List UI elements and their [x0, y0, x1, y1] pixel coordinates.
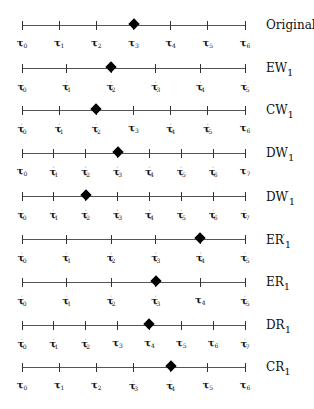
tick-mark — [53, 321, 54, 330]
tick-label: τ′5 — [177, 209, 186, 221]
tick-label: τ3 — [128, 38, 139, 49]
tick-mark — [66, 235, 67, 244]
tick-label: τ′2 — [81, 166, 90, 178]
tick-mark — [170, 106, 171, 115]
tick-label: τ′3 — [151, 252, 160, 264]
tick-mark — [59, 363, 60, 372]
timeline-row: τ0τ1τ2τ3τ4τ5τ6Original — [0, 25, 314, 65]
tick-label: τ′5 — [177, 166, 186, 178]
tick-label: τ5 — [203, 38, 214, 49]
tick-mark — [149, 192, 150, 201]
tick-mark — [245, 363, 246, 372]
tick-label: τ′1 — [62, 252, 71, 264]
tick-label: τ0 — [17, 166, 28, 177]
axis-line — [22, 239, 245, 240]
tick-mark — [85, 321, 86, 330]
tick-mark — [133, 363, 134, 372]
tick-label: τ′4 — [145, 166, 154, 178]
tick-label: τ′5 — [203, 123, 212, 135]
tick-label: τ′6 — [209, 166, 218, 178]
tick-label: τ′2 — [81, 209, 90, 221]
tick-mark — [66, 64, 67, 73]
tick-mark — [96, 21, 97, 30]
timeline-row: τ0τ′1τ′2τ′3τ′4τ′5τ′6τ7DW1 — [0, 153, 314, 193]
tick-label: τ′3 — [151, 81, 160, 93]
tick-mark — [22, 192, 23, 201]
tick-label: τ2 — [91, 380, 102, 391]
tick-mark — [200, 278, 201, 287]
tick-label: τ1 — [54, 380, 65, 391]
tick-mark — [117, 321, 118, 330]
tick-label: τ′5 — [241, 252, 250, 264]
tick-mark — [66, 278, 67, 287]
tick-label: τ′4 — [196, 252, 205, 264]
tick-mark — [85, 149, 86, 158]
tick-mark — [22, 363, 23, 372]
diamond-marker-icon — [128, 18, 139, 29]
tick-mark — [111, 235, 112, 244]
tick-label: τ′7 — [241, 209, 250, 221]
tick-mark — [213, 321, 214, 330]
axis-line — [22, 282, 245, 283]
tick-mark — [245, 321, 246, 330]
tick-label: τ′2 — [107, 252, 116, 264]
tick-label: τ′3 — [129, 380, 138, 392]
tick-label: τ6 — [240, 38, 251, 49]
tick-label: τ′0 — [18, 209, 27, 221]
tick-mark — [155, 235, 156, 244]
tick-mark — [22, 149, 23, 158]
tick-label: τ′2 — [107, 81, 116, 93]
tick-mark — [59, 106, 60, 115]
tick-mark — [133, 106, 134, 115]
row-label: DW1 — [266, 146, 294, 163]
tick-mark — [207, 21, 208, 30]
tick-mark — [245, 149, 246, 158]
tick-label: τ4 — [195, 295, 206, 306]
tick-label: τ′3 — [113, 166, 122, 178]
tick-mark — [22, 106, 23, 115]
tick-mark — [181, 192, 182, 201]
tick-label: τ′1 — [62, 81, 71, 93]
tick-mark — [53, 149, 54, 158]
tick-label: τ′0 — [18, 252, 27, 264]
tick-label: τ′7 — [241, 338, 250, 350]
row-label: EW1 — [266, 61, 293, 78]
tick-mark — [245, 278, 246, 287]
tick-label: τ6 — [208, 338, 219, 349]
tick-mark — [207, 106, 208, 115]
axis-line — [22, 68, 245, 69]
axis-line — [22, 196, 245, 197]
tick-mark — [149, 149, 150, 158]
tick-label: τ4 — [165, 38, 176, 49]
tick-label: τ′2 — [81, 338, 90, 350]
tick-mark — [117, 192, 118, 201]
axis-line — [22, 153, 245, 154]
tick-label: τ3 — [128, 123, 139, 134]
tick-label: τ′1 — [49, 209, 58, 221]
tick-label: τ0 — [17, 380, 28, 391]
row-label: DR1 — [266, 318, 291, 335]
tick-label: τ′0 — [18, 295, 27, 307]
tick-label: τ6 — [240, 123, 251, 134]
tick-label: τ7 — [240, 166, 251, 177]
tick-mark — [22, 21, 23, 30]
timeline-row: τ′0τ′1τ′2τ3τ′4τ′5τ6CW1 — [0, 110, 314, 150]
tick-label: τ′4 — [166, 123, 175, 135]
row-label: Original — [266, 18, 314, 32]
tick-label: τ′1 — [49, 166, 58, 178]
axis-line — [22, 325, 245, 326]
tick-mark — [245, 21, 246, 30]
timeline-row: τ′0τ′1τ′2τ′3τ4τ′5ER1 — [0, 282, 314, 322]
tick-mark — [213, 192, 214, 201]
tick-mark — [245, 192, 246, 201]
tick-label: τ′3 — [113, 209, 122, 221]
tick-mark — [245, 106, 246, 115]
tick-mark — [207, 363, 208, 372]
timeline-row: τ0τ1τ2τ′3τ′4τ5τ6CR1 — [0, 367, 314, 407]
tick-mark — [53, 192, 54, 201]
tick-label: τ5 — [176, 338, 187, 349]
tick-mark — [22, 64, 23, 73]
tick-mark — [59, 21, 60, 30]
tick-label: τ2 — [91, 38, 102, 49]
row-label: ER1 — [266, 275, 290, 292]
